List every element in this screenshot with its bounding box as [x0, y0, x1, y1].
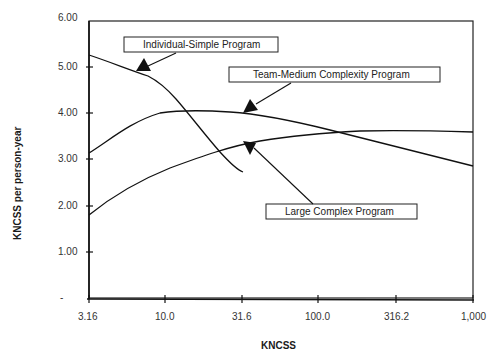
y-tick-6: 6.00: [58, 12, 78, 23]
x-tick-100: 100.0: [305, 311, 330, 322]
callout-large-label: Large Complex Program: [285, 206, 394, 217]
callout-team-label: Team-Medium Complexity Program: [253, 69, 410, 80]
series-individual-simple: [89, 55, 243, 172]
y-tick-1: 1.00: [58, 246, 78, 257]
y-tick-5: 5.00: [58, 61, 78, 72]
x-axis: [87, 299, 474, 300]
arrow-icon: [136, 58, 151, 71]
y-axis-title: KNCSS per person-year: [12, 127, 23, 240]
callout-individual-simple: Individual-Simple Program: [124, 37, 278, 71]
x-axis-title: KNCSS: [261, 340, 296, 351]
series-large-complex: [89, 131, 473, 215]
x-tick-10: 10.0: [155, 311, 175, 322]
y-tick-0: -: [60, 292, 63, 303]
callout-team-medium: Team-Medium Complexity Program: [229, 67, 440, 113]
y-tick-4: 4.00: [58, 107, 78, 118]
x-tick-316.2: 316.2: [384, 311, 409, 322]
y-tick-labels: 6.00 5.00 4.00 3.00 2.00 1.00 -: [58, 12, 78, 303]
y-tick-3: 3.00: [58, 153, 78, 164]
x-tick-3.16: 3.16: [78, 311, 98, 322]
callout-large-complex: Large Complex Program: [243, 141, 417, 219]
arrow-icon: [243, 99, 258, 113]
callout-individual-label: Individual-Simple Program: [143, 39, 260, 50]
x-tick-31.6: 31.6: [232, 311, 252, 322]
chart-canvas: 6.00 5.00 4.00 3.00 2.00 1.00 - 3.16 10.…: [0, 0, 500, 363]
x-tick-1000: 1,000: [461, 311, 486, 322]
x-tick-labels: 3.16 10.0 31.6 100.0 316.2 1,000: [78, 311, 486, 322]
plot-frame: [89, 21, 473, 298]
y-tick-2: 2.00: [58, 200, 78, 211]
